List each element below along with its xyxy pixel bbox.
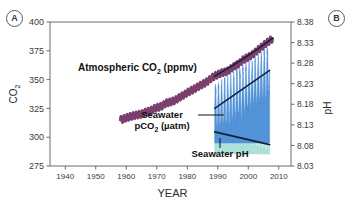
annotation-seawater-pco2-line1: Seawater [141,109,183,120]
svg-text:1990: 1990 [209,172,227,181]
svg-text:2000: 2000 [239,172,257,181]
svg-text:1950: 1950 [87,172,105,181]
svg-text:2010: 2010 [270,172,288,181]
svg-text:325: 325 [29,104,44,114]
chart-svg: 2753003253503754008.038.088.138.188.238.… [0,0,348,206]
svg-text:400: 400 [29,17,44,27]
svg-text:1940: 1940 [56,172,74,181]
annotation-atmospheric-co2: Atmospheric CO2 (ppmv) [78,62,197,75]
svg-text:8.03: 8.03 [297,161,314,171]
svg-text:1960: 1960 [117,172,135,181]
svg-text:350: 350 [29,75,44,85]
svg-text:275: 275 [29,161,44,171]
svg-text:375: 375 [29,46,44,56]
panel-label-a: A [6,10,23,27]
annotation-seawater-ph: Seawater pH [191,148,248,159]
svg-text:8.23: 8.23 [297,79,314,89]
svg-text:8.08: 8.08 [297,141,314,151]
svg-text:1970: 1970 [148,172,166,181]
svg-text:8.28: 8.28 [297,58,314,68]
figure-container: A B 2753003253503754008.038.088.138.188.… [0,0,348,206]
x-axis-title: YEAR [158,187,188,199]
svg-text:8.13: 8.13 [297,120,314,130]
panel-label-b: B [328,10,345,27]
svg-text:1980: 1980 [178,172,196,181]
y-axis-title-right: pH [322,102,333,115]
svg-text:8.38: 8.38 [297,17,314,27]
annotation-seawater-pco2-line2: pCO2 (µatm) [134,120,189,133]
svg-text:300: 300 [29,132,44,142]
svg-text:8.33: 8.33 [297,38,314,48]
svg-text:8.18: 8.18 [297,99,314,109]
y-axis-title-left: CO2 [8,84,21,103]
